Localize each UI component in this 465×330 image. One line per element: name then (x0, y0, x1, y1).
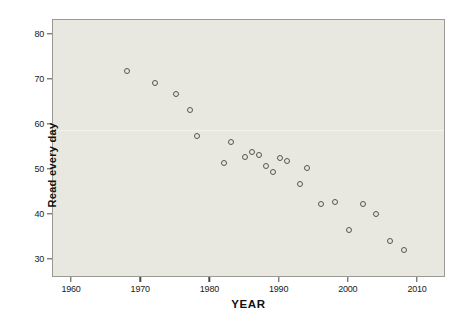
x-tick-label: 2000 (338, 284, 357, 294)
x-tick-label: 1980 (200, 284, 219, 294)
x-axis: 196019701980199020002010 (0, 0, 465, 330)
x-tick-mark (278, 277, 279, 282)
x-tick-mark (209, 277, 210, 282)
x-tick-label: 1960 (61, 284, 80, 294)
x-tick-mark (416, 277, 417, 282)
scatter-plot-figure: 304050607080 196019701980199020002010 Re… (0, 0, 465, 330)
x-axis-title: YEAR (52, 298, 445, 310)
x-tick-label: 1990 (269, 284, 288, 294)
x-tick-label: 1970 (131, 284, 150, 294)
y-axis-title: Read every day (46, 123, 58, 208)
x-tick-mark (139, 277, 140, 282)
x-tick-mark (70, 277, 71, 282)
x-tick-mark (347, 277, 348, 282)
x-tick-label: 2010 (407, 284, 426, 294)
